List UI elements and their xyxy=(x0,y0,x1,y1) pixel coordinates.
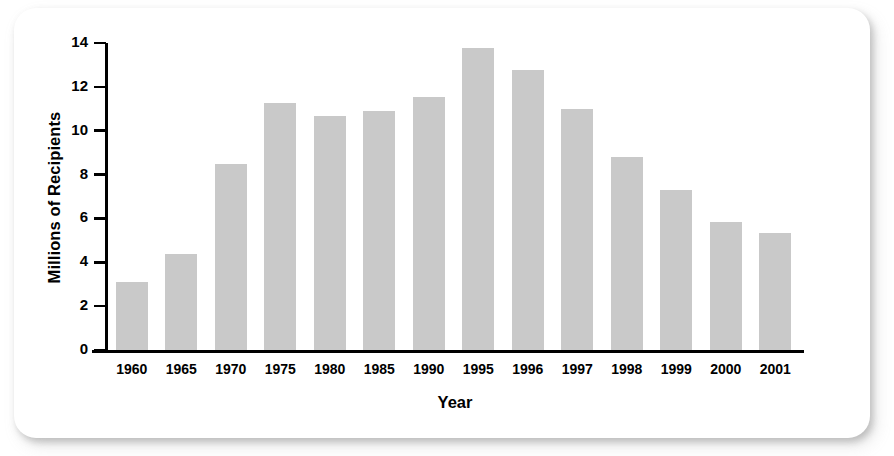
y-axis-tick-label: 6 xyxy=(48,208,88,225)
bar xyxy=(462,48,494,350)
bar xyxy=(116,282,148,350)
bar xyxy=(264,103,296,350)
bar-chart: Millions of Recipients 02468101214 19601… xyxy=(0,0,894,456)
bar xyxy=(215,164,247,350)
bar xyxy=(512,70,544,350)
y-axis-tick-label: 4 xyxy=(48,252,88,269)
y-axis-tick-label: 2 xyxy=(48,296,88,313)
y-axis-tick xyxy=(94,261,106,264)
y-axis-tick xyxy=(94,129,106,132)
bar xyxy=(165,254,197,350)
y-axis-tick xyxy=(94,86,106,89)
y-axis-tick-label: 14 xyxy=(48,33,88,50)
y-axis-tick-label: 12 xyxy=(48,77,88,94)
bar xyxy=(413,97,445,350)
bar xyxy=(660,190,692,350)
y-axis-tick xyxy=(94,173,106,176)
bar xyxy=(611,157,643,350)
y-axis-tick xyxy=(94,217,106,220)
bar xyxy=(314,116,346,350)
bar xyxy=(710,222,742,350)
y-axis-tick xyxy=(94,42,106,45)
x-axis-title: Year xyxy=(105,393,805,412)
y-axis-tick-label: 8 xyxy=(48,165,88,182)
y-axis-tick-label: 0 xyxy=(48,340,88,357)
x-axis-tick-label: 2001 xyxy=(745,361,805,377)
y-axis-tick-label: 10 xyxy=(48,121,88,138)
y-axis-tick xyxy=(94,305,106,308)
bar xyxy=(759,233,791,350)
x-axis-line xyxy=(92,350,804,353)
bar xyxy=(561,109,593,350)
bar xyxy=(363,111,395,350)
